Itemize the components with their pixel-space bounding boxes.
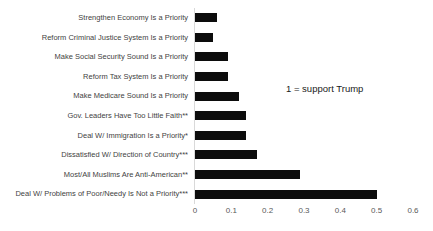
category-label: Strengthen Economy Is a Priority [0,8,188,28]
bar-row [195,47,413,67]
x-tick-label: 0.5 [371,206,382,215]
category-label: Dissatisfied W/ Direction of Country*** [0,145,188,165]
bar-row [195,28,413,48]
bar [195,190,377,199]
bar [195,111,246,120]
x-axis: 00.10.20.30.40.50.6 [195,206,413,220]
category-label: Reform Tax System Is a Priority [0,67,188,87]
category-labels: Strengthen Economy Is a PriorityReform C… [0,8,188,204]
bar-row [195,126,413,146]
category-label: Make Social Security Sound Is a Priority [0,47,188,67]
bar [195,150,257,159]
category-label: Make Medicare Sound Is a Priority [0,86,188,106]
x-tick-label: 0.2 [262,206,273,215]
bar [195,131,246,140]
bar [195,52,228,61]
bar-row [195,145,413,165]
bar-row [195,8,413,28]
bar-row [195,106,413,126]
category-label: Reform Criminal Justice System Is a Prio… [0,28,188,48]
chart-annotation: 1 = support Trump [286,83,363,94]
bar [195,72,228,81]
bar [195,170,300,179]
bar [195,13,217,22]
bar [195,92,239,101]
x-tick-label: 0.4 [335,206,346,215]
bar-row [195,165,413,185]
category-label: Gov. Leaders Have Too Little Faith** [0,106,188,126]
category-label: Deal W/ Immigration Is a Priority* [0,126,188,146]
category-label: Deal W/ Problems of Poor/Needy Is Not a … [0,184,188,204]
x-tick-label: 0 [193,206,197,215]
category-label: Most/All Muslims Are Anti-American** [0,165,188,185]
bar-row [195,184,413,204]
bars-area [194,8,413,204]
x-tick-label: 0.3 [298,206,309,215]
bar [195,33,213,42]
bar-chart: Strengthen Economy Is a PriorityReform C… [0,0,433,231]
x-tick-label: 0.1 [226,206,237,215]
x-tick-label: 0.6 [407,206,418,215]
